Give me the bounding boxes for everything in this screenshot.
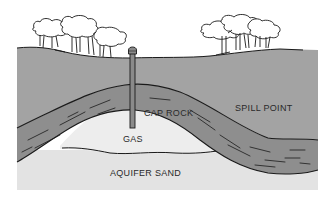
gas-label: GAS xyxy=(123,134,143,144)
tree-cluster-right xyxy=(201,14,280,55)
cap-rock-label: CAP ROCK xyxy=(144,108,193,118)
spill-point-label: SPILL POINT xyxy=(235,103,293,113)
well xyxy=(129,47,137,128)
aquifer-sand-label: AQUIFER SAND xyxy=(110,168,181,178)
wellhead-icon xyxy=(129,47,137,54)
